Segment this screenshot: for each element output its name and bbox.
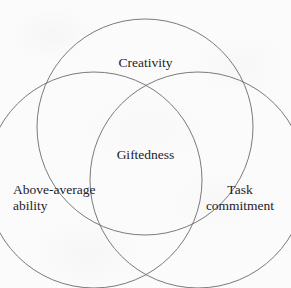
label-above-average-ability: Above-average ability xyxy=(13,182,95,213)
label-task-commitment: Task commitment xyxy=(196,182,284,213)
label-above-average-ability-line-1: Above-average xyxy=(13,182,95,198)
label-giftedness: Giftedness xyxy=(0,147,291,163)
label-creativity: Creativity xyxy=(0,55,291,71)
venn-circles-group xyxy=(0,0,291,288)
venn-diagram-figure: Creativity Giftedness Above-average abil… xyxy=(0,0,291,288)
label-creativity-line-1: Creativity xyxy=(0,55,291,71)
label-above-average-ability-line-2: ability xyxy=(13,198,95,214)
label-task-commitment-line-2: commitment xyxy=(196,198,284,214)
label-giftedness-line-1: Giftedness xyxy=(0,147,291,163)
circle-task-commitment xyxy=(90,72,291,288)
label-task-commitment-line-1: Task xyxy=(196,182,284,198)
circle-above-average-ability xyxy=(0,72,202,288)
